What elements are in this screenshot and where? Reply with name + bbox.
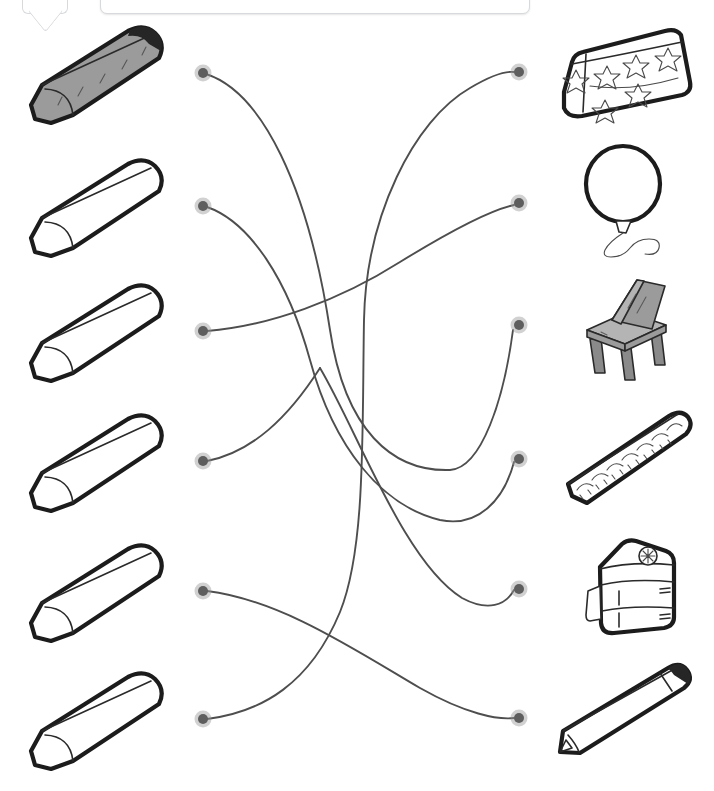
connector-line-4[interactable] bbox=[207, 368, 320, 461]
left-node-group bbox=[195, 65, 212, 728]
connector-dot-right-1[interactable] bbox=[511, 64, 528, 81]
connector-dot-left-4[interactable] bbox=[195, 453, 212, 470]
connector-dot-right-4[interactable] bbox=[511, 451, 528, 468]
connector-dot-left-5[interactable] bbox=[195, 583, 212, 600]
link-group bbox=[206, 72, 514, 719]
connector-line-6[interactable] bbox=[207, 72, 514, 719]
connector-dot-left-2[interactable] bbox=[195, 198, 212, 215]
right-node-group bbox=[511, 64, 528, 727]
connector-dot-left-1[interactable] bbox=[195, 65, 212, 82]
connector-dot-left-3[interactable] bbox=[195, 323, 212, 340]
connector-layer bbox=[0, 0, 714, 791]
connector-line-5[interactable] bbox=[207, 591, 514, 718]
connector-dot-right-2[interactable] bbox=[511, 195, 528, 212]
connector-svg bbox=[0, 0, 714, 791]
connector-dot-right-6[interactable] bbox=[511, 710, 528, 727]
connector-line-1[interactable] bbox=[206, 74, 513, 470]
connector-line-3[interactable] bbox=[207, 205, 514, 331]
connector-dot-right-5[interactable] bbox=[511, 581, 528, 598]
connector-dot-left-6[interactable] bbox=[195, 711, 212, 728]
worksheet-canvas bbox=[0, 0, 714, 791]
connector-line-4b[interactable] bbox=[320, 368, 514, 606]
connector-dot-right-3[interactable] bbox=[511, 317, 528, 334]
